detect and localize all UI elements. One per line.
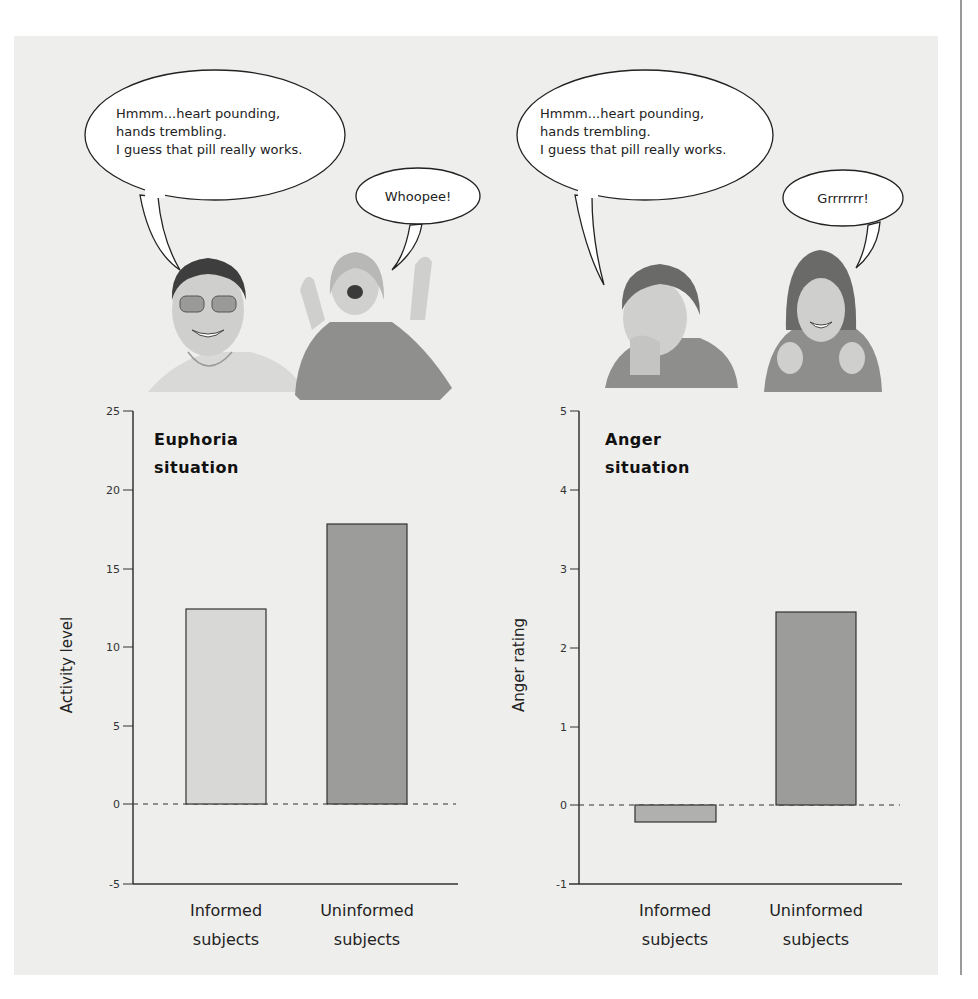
y-ticks: 25 20 15 10 5 0 -5 bbox=[106, 405, 133, 891]
bar-informed bbox=[635, 805, 716, 822]
bubble-line-2: hands trembling. bbox=[540, 124, 651, 139]
angry-woman-illustration bbox=[764, 250, 882, 392]
bar-uninformed bbox=[776, 612, 856, 805]
speech-bubble-left-small: Whoopee! bbox=[356, 168, 480, 270]
speech-bubble-right-small: Grrrrrrr! bbox=[783, 170, 903, 268]
tick-label: -1 bbox=[556, 878, 567, 891]
chart-title-line-1: Anger bbox=[605, 430, 661, 449]
right-scene: Hmmm...heart pounding, hands trembling. … bbox=[517, 70, 903, 392]
speech-bubble-left-large: Hmmm...heart pounding, hands trembling. … bbox=[85, 70, 345, 270]
category-label: Uninformed bbox=[769, 901, 863, 920]
bubble-line-1: Hmmm...heart pounding, bbox=[540, 106, 704, 121]
tick-label: 4 bbox=[560, 484, 567, 497]
tick-label: 5 bbox=[560, 405, 567, 418]
tick-label: -5 bbox=[109, 878, 120, 891]
category-label: Informed bbox=[639, 901, 711, 920]
y-axis-label: Anger rating bbox=[510, 618, 528, 712]
bubble-whoopee: Whoopee! bbox=[385, 189, 451, 204]
bar-uninformed bbox=[327, 524, 407, 804]
speech-bubble-right-large: Hmmm...heart pounding, hands trembling. … bbox=[517, 70, 773, 285]
chart-title-line-2: situation bbox=[154, 458, 239, 477]
tick-label: 1 bbox=[560, 721, 567, 734]
tick-label: 20 bbox=[106, 484, 120, 497]
tick-label: 25 bbox=[106, 405, 120, 418]
chart-title-line-1: Euphoria bbox=[154, 430, 238, 449]
chart-euphoria: 25 20 15 10 5 0 -5 Activity level Euphor… bbox=[58, 405, 458, 949]
bar-informed bbox=[186, 609, 266, 804]
tick-label: 10 bbox=[106, 641, 120, 654]
tick-label: 0 bbox=[113, 798, 120, 811]
bubble-line-3: I guess that pill really works. bbox=[540, 142, 726, 157]
man-with-glasses-illustration bbox=[148, 258, 305, 392]
worried-man-illustration bbox=[605, 264, 738, 388]
tick-label: 2 bbox=[560, 642, 567, 655]
tick-label: 0 bbox=[560, 799, 567, 812]
category-label: Uninformed bbox=[320, 901, 414, 920]
category-label: subjects bbox=[783, 930, 849, 949]
y-axis-label: Activity level bbox=[58, 617, 76, 714]
tick-label: 5 bbox=[113, 720, 120, 733]
category-label: subjects bbox=[193, 930, 259, 949]
chart-anger: 5 4 3 2 1 0 -1 Anger rating Anger situat… bbox=[510, 405, 902, 949]
y-ticks: 5 4 3 2 1 0 -1 bbox=[556, 405, 579, 891]
tick-label: 15 bbox=[106, 563, 120, 576]
bubble-line-3: I guess that pill really works. bbox=[116, 142, 302, 157]
bubble-line-1: Hmmm...heart pounding, bbox=[116, 106, 280, 121]
category-label: subjects bbox=[334, 930, 400, 949]
left-scene: Hmmm...heart pounding, hands trembling. … bbox=[85, 70, 480, 400]
category-label: Informed bbox=[190, 901, 262, 920]
excited-woman-illustration bbox=[295, 252, 452, 400]
bubble-grrr: Grrrrrrr! bbox=[817, 191, 868, 206]
category-label: subjects bbox=[642, 930, 708, 949]
figure-canvas: Hmmm...heart pounding, hands trembling. … bbox=[0, 0, 978, 999]
tick-label: 3 bbox=[560, 563, 567, 576]
chart-title-line-2: situation bbox=[605, 458, 690, 477]
bubble-line-2: hands trembling. bbox=[116, 124, 227, 139]
